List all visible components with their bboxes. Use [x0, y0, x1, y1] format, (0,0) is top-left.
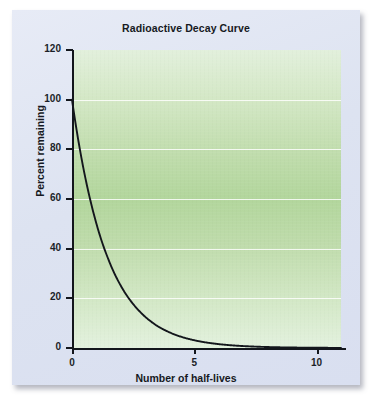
figure-panel: Radioactive Decay Curve 020406080100120 … — [12, 10, 360, 385]
y-axis-tick — [66, 297, 73, 299]
x-axis-title: Number of half-lives — [12, 372, 360, 384]
y-axis-tick — [66, 99, 73, 101]
x-axis-line — [72, 348, 346, 350]
x-axis-tick — [194, 348, 196, 354]
x-axis-tick — [72, 348, 74, 354]
x-axis-tick-label: 0 — [57, 357, 87, 368]
y-axis-tick-label: 40 — [17, 242, 61, 253]
y-axis-tick — [66, 148, 73, 150]
y-axis-tick-label: 20 — [17, 291, 61, 302]
y-axis-tick — [66, 248, 73, 250]
x-axis-tick — [317, 348, 319, 354]
y-axis-tick-label: 120 — [17, 43, 61, 54]
y-axis-tick — [66, 49, 73, 51]
decay-curve — [72, 50, 341, 348]
y-axis-title: Percent remaining — [34, 61, 46, 241]
y-axis-tick-label: 0 — [17, 341, 61, 352]
y-axis-tick — [66, 198, 73, 200]
x-axis-tick-label: 5 — [179, 357, 209, 368]
x-axis-tick-label: 10 — [302, 357, 332, 368]
chart-title: Radioactive Decay Curve — [12, 22, 360, 34]
y-axis-line — [72, 50, 74, 350]
